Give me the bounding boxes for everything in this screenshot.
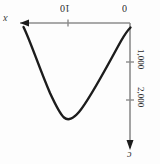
c-axis-label: c [127,150,131,160]
plot-figure: x 10 0 c 1,000 2,000 [0,0,160,164]
plot-svg [0,0,160,164]
x-tick-label-0: 0 [122,3,127,13]
c-axis-arrowhead-icon [127,140,134,150]
x-tick-label-10: 10 [60,3,70,13]
cost-curve [24,27,131,119]
c-tick-label-1000: 1,000 [136,49,145,69]
x-axis-arrowhead-icon [20,20,29,27]
c-tick-label-2000: 2,000 [136,87,145,107]
figure-screenshot: x 10 0 c 1,000 2,000 [0,0,160,164]
x-axis-label: x [3,14,7,24]
